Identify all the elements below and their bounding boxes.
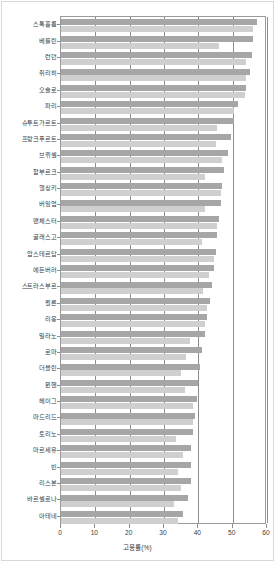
bar-1 — [61, 321, 205, 327]
category-label: 오슬로 — [1, 86, 57, 94]
bar-0 — [61, 19, 257, 25]
bar-group — [61, 509, 267, 525]
bar-0 — [61, 69, 250, 75]
x-tick-label: 40 — [194, 529, 201, 536]
bar-group — [61, 164, 267, 180]
chart-figure: 스톡홀름베를린런던취리히오슬로파리슈투트가르트프랑크푸르트브뤼셀함부르크헬싱키버… — [0, 0, 275, 562]
bar-1 — [61, 190, 221, 196]
bar-group — [61, 443, 267, 459]
bar-0 — [61, 298, 210, 304]
bar-1 — [61, 469, 178, 475]
category-label: 프랑크푸르트 — [1, 135, 57, 143]
bar-1 — [61, 256, 214, 262]
bar-0 — [61, 396, 197, 402]
x-tick-label: 10 — [91, 529, 98, 536]
bar-group — [61, 263, 267, 279]
bar-group — [61, 296, 267, 312]
category-label: 글래스고 — [1, 233, 57, 241]
bar-group — [61, 230, 267, 246]
category-label: 스트라스부르 — [1, 282, 57, 290]
bar-1 — [61, 157, 222, 163]
bar-0 — [61, 478, 191, 484]
category-label: 쾰른 — [1, 299, 57, 307]
bar-0 — [61, 265, 214, 271]
bar-group — [61, 427, 267, 443]
bar-1 — [61, 305, 207, 311]
bar-group — [61, 361, 267, 377]
bar-1 — [61, 125, 217, 131]
bar-group — [61, 148, 267, 164]
bar-1 — [61, 26, 253, 32]
bar-1 — [61, 354, 186, 360]
x-tick-label: 0 — [58, 529, 62, 536]
bar-0 — [61, 445, 191, 451]
bar-1 — [61, 223, 217, 229]
bar-1 — [61, 43, 219, 49]
bar-1 — [61, 239, 202, 245]
bar-1 — [61, 174, 205, 180]
bar-1 — [61, 518, 178, 524]
bar-0 — [61, 364, 200, 370]
bar-group — [61, 83, 267, 99]
bar-0 — [61, 413, 195, 419]
x-tick — [129, 524, 130, 528]
bar-1 — [61, 92, 245, 98]
bar-1 — [61, 436, 176, 442]
category-label: 아테네 — [1, 512, 57, 520]
bar-group — [61, 50, 267, 66]
bar-0 — [61, 85, 246, 91]
bar-1 — [61, 108, 234, 114]
category-label: 헬싱키 — [1, 184, 57, 192]
x-tick-label: 60 — [262, 529, 269, 536]
category-label: 마르세유 — [1, 446, 57, 454]
bar-1 — [61, 75, 246, 81]
bar-group — [61, 246, 267, 262]
category-label: 베를린 — [1, 37, 57, 45]
x-tick — [60, 524, 61, 528]
bar-0 — [61, 462, 191, 468]
bar-1 — [61, 206, 205, 212]
category-label: 맨체스터 — [1, 217, 57, 225]
bar-group — [61, 328, 267, 344]
category-label: 더블린 — [1, 364, 57, 372]
bar-0 — [61, 200, 221, 206]
bar-group — [61, 197, 267, 213]
bar-0 — [61, 495, 188, 501]
category-label: 스톡홀름 — [1, 20, 57, 28]
bar-0 — [61, 118, 234, 124]
category-label: 버밍엄 — [1, 200, 57, 208]
category-label: 취리히 — [1, 69, 57, 77]
plot-area — [60, 16, 266, 524]
bar-0 — [61, 101, 238, 107]
bar-group — [61, 394, 267, 410]
bar-0 — [61, 314, 207, 320]
bar-group — [61, 99, 267, 115]
bar-1 — [61, 501, 174, 507]
bar-0 — [61, 183, 222, 189]
bar-1 — [61, 403, 193, 409]
bar-0 — [61, 331, 205, 337]
bar-0 — [61, 429, 193, 435]
bar-group — [61, 378, 267, 394]
bar-group — [61, 33, 267, 49]
bar-0 — [61, 249, 216, 255]
bar-group — [61, 345, 267, 361]
category-label: 리옹 — [1, 315, 57, 323]
bar-0 — [61, 282, 212, 288]
bar-group — [61, 66, 267, 82]
bar-1 — [61, 387, 185, 393]
gridline-60 — [267, 17, 268, 523]
bar-0 — [61, 216, 219, 222]
category-label: 로마 — [1, 348, 57, 356]
bar-0 — [61, 347, 202, 353]
bar-0 — [61, 36, 253, 42]
bar-1 — [61, 59, 246, 65]
bar-group — [61, 492, 267, 508]
category-label: 슈투트가르트 — [1, 119, 57, 127]
bar-1 — [61, 370, 181, 376]
category-label: 마드리드 — [1, 413, 57, 421]
bar-0 — [61, 167, 224, 173]
category-label: 바르셀로나 — [1, 495, 57, 503]
x-tick — [266, 524, 267, 528]
category-axis-labels: 스톡홀름베를린런던취리히오슬로파리슈투트가르트프랑크푸르트브뤼셀함부르크헬싱키버… — [0, 16, 57, 524]
